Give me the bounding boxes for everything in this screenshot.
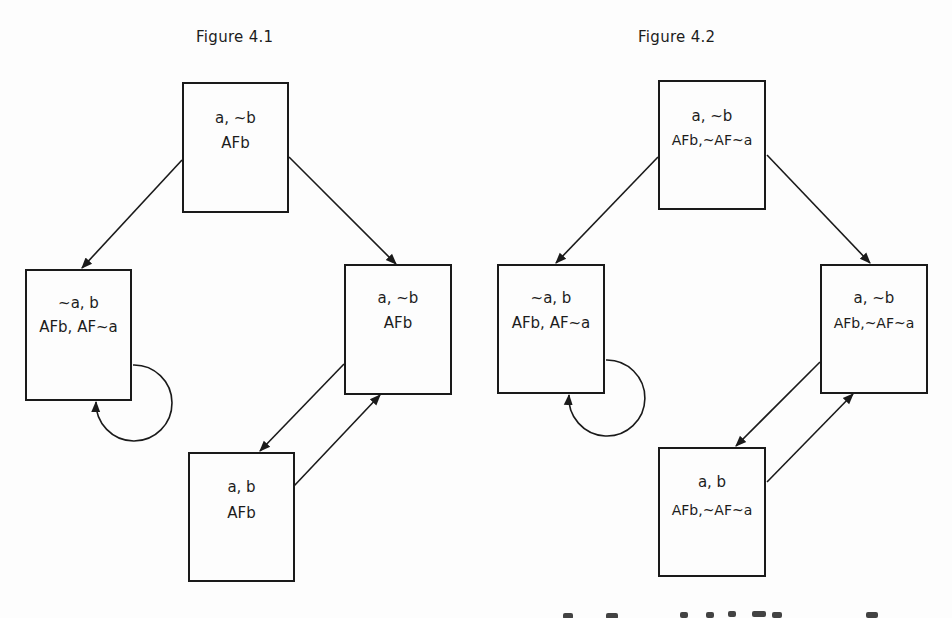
state-line2: AFb,~AF~a xyxy=(640,498,784,522)
edge-42-top-right xyxy=(767,155,870,263)
fig41-state-top: a, ~b AFb xyxy=(182,82,289,213)
state-line2: AFb, AF~a xyxy=(479,311,623,335)
state-line1: ~a, b xyxy=(7,291,150,315)
state-line1: a, b xyxy=(170,475,313,499)
state-line2: AFb, AF~a xyxy=(7,315,150,339)
edge-41-top-left xyxy=(82,160,182,268)
state-line2: AFb,~AF~a xyxy=(640,128,784,152)
state-line1: a, ~b xyxy=(164,106,307,130)
figure-4-1-title: Figure 4.1 xyxy=(196,28,273,46)
fig42-state-top: a, ~b AFb,~AF~a xyxy=(658,80,766,210)
edge-42-bottom-right xyxy=(767,394,853,482)
state-line2: AFb,~AF~a xyxy=(802,311,946,335)
edge-41-right-bottom xyxy=(260,364,344,451)
state-line1: a, ~b xyxy=(640,104,784,128)
state-line1: a, ~b xyxy=(802,286,946,310)
fig41-state-right: a, ~b AFb xyxy=(344,264,452,395)
fig42-state-bottom: a, b AFb,~AF~a xyxy=(658,447,766,577)
fig41-state-left: ~a, b AFb, AF~a xyxy=(25,269,132,401)
state-line2: AFb xyxy=(164,131,307,155)
edge-42-top-left xyxy=(556,157,658,263)
fig42-state-right: a, ~b AFb,~AF~a xyxy=(820,264,928,394)
state-line1: a, ~b xyxy=(326,286,470,310)
figure-4-2-title: Figure 4.2 xyxy=(638,28,715,46)
fig42-state-left: ~a, b AFb, AF~a xyxy=(497,264,605,394)
edge-41-bottom-right xyxy=(294,395,380,486)
state-line1: ~a, b xyxy=(479,286,623,310)
state-line2: AFb xyxy=(170,501,313,525)
fig41-state-bottom: a, b AFb xyxy=(188,452,295,582)
state-line2: AFb xyxy=(326,311,470,335)
edge-41-top-right xyxy=(289,157,396,264)
edge-42-right-bottom xyxy=(736,362,820,446)
state-line1: a, b xyxy=(640,470,784,494)
